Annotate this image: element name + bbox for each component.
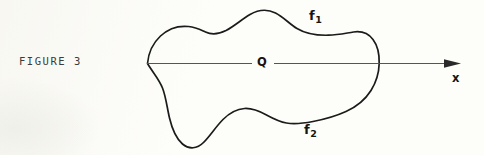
upper-boundary-label: f1 <box>309 8 321 23</box>
figure-panel: FIGURE 3 f1 f2 Q x <box>0 0 484 155</box>
upper-boundary-label-subscript: 1 <box>315 14 322 25</box>
lower-boundary-label: f2 <box>304 122 316 137</box>
figure-drawing <box>0 0 484 155</box>
x-axis-label: x <box>452 71 459 85</box>
interior-point-label: Q <box>257 55 267 69</box>
lower-boundary-label-subscript: 2 <box>310 128 317 139</box>
region-outline <box>148 10 380 147</box>
x-axis-arrowhead-icon <box>444 59 461 68</box>
upper-boundary-label-base: f <box>309 8 315 23</box>
lower-boundary-label-base: f <box>304 122 310 137</box>
